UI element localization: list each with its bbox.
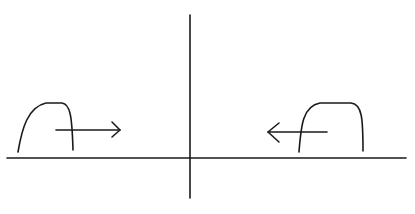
left-arrow-icon [268, 123, 327, 142]
right-arrow-icon [56, 122, 120, 137]
pulse-diagram [0, 0, 415, 214]
left-pulse [18, 103, 73, 152]
right-pulse [299, 103, 363, 152]
